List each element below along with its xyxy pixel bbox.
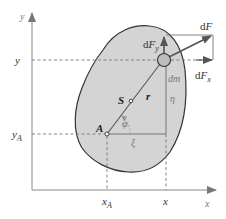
eta-label: η <box>170 93 175 104</box>
point-A-marker <box>105 132 109 136</box>
vector-r-label: r <box>146 90 151 102</box>
y-axis-label: y <box>19 11 25 22</box>
centroid-S-marker <box>129 99 133 103</box>
x-tick-label: x <box>162 195 168 207</box>
yA-tick-label: yA <box>11 128 22 143</box>
rigid-body-force-diagram: y x y yA xA x A S r dm φ ξ η dF dFy dFx <box>0 0 226 219</box>
y-tick-label: y <box>14 54 20 66</box>
dF-label: dF <box>200 20 213 32</box>
mass-element-dm <box>158 54 171 67</box>
xi-label: ξ <box>131 137 136 149</box>
x-axis-label: x <box>204 198 210 209</box>
mass-dm-label: dm <box>168 73 180 84</box>
dFx-label: dFx <box>195 69 211 84</box>
centroid-S-label: S <box>118 94 124 106</box>
phi-label: φ <box>122 118 128 129</box>
xA-tick-label: xA <box>101 195 112 210</box>
point-A-label: A <box>95 122 103 134</box>
